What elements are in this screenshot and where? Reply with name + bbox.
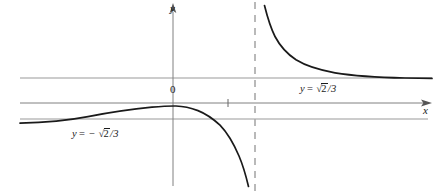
- lower-label-denominator: /3: [110, 128, 119, 139]
- plot-canvas: [0, 0, 435, 194]
- upper-label-denominator: /3: [328, 83, 337, 94]
- function-graph-figure: y x 0 y=√2/3 y=−√2/3: [0, 0, 435, 194]
- lower-label-radicand: 2: [104, 128, 111, 140]
- upper-label-radical: √2: [315, 83, 328, 95]
- upper-label-equals: =: [305, 83, 315, 94]
- lower-asymptote-label: y=−√2/3: [72, 128, 119, 140]
- lower-label-equals: =: [77, 128, 87, 139]
- curve-left-branch: [20, 106, 249, 187]
- lower-label-radical: √2: [97, 128, 110, 140]
- origin-label: 0: [170, 84, 176, 95]
- lower-label-minus-sign: −: [87, 128, 97, 139]
- x-axis-label: x: [423, 105, 428, 116]
- curve-right-branch: [265, 6, 433, 79]
- upper-label-radicand: 2: [321, 83, 328, 95]
- upper-asymptote-label: y=√2/3: [300, 83, 337, 95]
- y-axis-label: y: [170, 3, 175, 14]
